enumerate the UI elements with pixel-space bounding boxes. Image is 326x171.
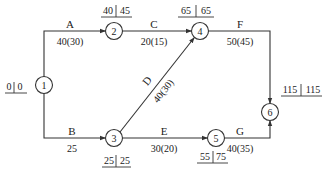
node-6-es: 115 [283, 84, 298, 95]
edge-F-name: F [237, 18, 243, 30]
edge-D-duration: 40(30) [151, 77, 177, 105]
edge-C-name: C [150, 18, 157, 30]
edge-A-duration: 40(30) [57, 36, 84, 48]
node-5-lf: 75 [216, 151, 226, 162]
edge-G-duration: 40(35) [227, 143, 254, 155]
edge-A-name: A [66, 18, 74, 30]
node-1: 1 [36, 77, 53, 94]
node-4-times: 65 65 [178, 5, 214, 17]
node-4-es: 65 [181, 5, 191, 16]
node-3-times: 25 25 [102, 155, 131, 167]
edge-A: A 40(30) [44, 18, 105, 77]
edge-C-duration: 20(15) [141, 36, 168, 48]
edge-G-name: G [236, 125, 244, 137]
node-5-times: 55 75 [197, 151, 228, 163]
edge-G: G 40(35) [225, 121, 270, 155]
edge-D: D 40(30) [120, 38, 194, 132]
node-2-times: 40 45 [101, 5, 132, 17]
node-6-times: 115 115 [281, 84, 322, 96]
node-4-lf: 65 [201, 5, 211, 16]
node-4-label: 4 [198, 26, 203, 37]
edge-C: C 20(15) [123, 18, 191, 48]
node-5-es: 55 [200, 151, 210, 162]
node-2-label: 2 [112, 26, 117, 37]
node-5: 5 [208, 130, 225, 147]
edge-D-name: D [140, 74, 154, 88]
edge-E-name: E [161, 125, 168, 137]
node-1-label: 1 [42, 80, 47, 91]
node-6-label: 6 [268, 107, 273, 118]
node-3: 3 [106, 130, 123, 147]
node-6-lf: 115 [306, 84, 321, 95]
edge-B-name: B [68, 125, 75, 137]
edge-F: F 50(45) [209, 18, 270, 103]
node-2: 2 [106, 23, 123, 40]
node-1-es: 0 [7, 81, 12, 92]
node-1-lf: 0 [18, 81, 23, 92]
edge-E: E 30(20) [123, 125, 207, 155]
node-2-lf: 45 [120, 5, 130, 16]
node-2-es: 40 [103, 5, 113, 16]
node-3-es: 25 [104, 155, 114, 166]
node-3-label: 3 [112, 133, 117, 144]
edge-F-duration: 50(45) [227, 36, 254, 48]
edge-B-duration: 25 [67, 143, 77, 154]
network-diagram: A 40(30) B 25 C 20(15) D 40(30) E 30(20)… [0, 0, 326, 171]
node-3-lf: 25 [120, 155, 130, 166]
node-1-times: 0 0 [5, 81, 27, 93]
node-4: 4 [192, 23, 209, 40]
edge-B: B 25 [44, 93, 105, 154]
node-6: 6 [262, 104, 279, 121]
node-5-label: 5 [214, 133, 219, 144]
edge-E-duration: 30(20) [151, 143, 178, 155]
